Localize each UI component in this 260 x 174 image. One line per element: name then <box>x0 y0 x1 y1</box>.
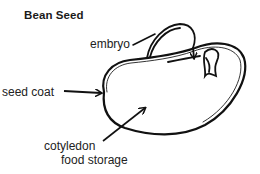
seed-coat-outline <box>103 43 245 134</box>
embryo-shape <box>147 24 218 76</box>
label-cotyledon: cotyledon <box>44 139 95 153</box>
seed-coat-arrow <box>64 91 101 93</box>
label-seed-coat: seed coat <box>2 85 54 99</box>
label-food-storage: food storage <box>61 153 128 167</box>
label-embryo: embryo <box>90 37 130 51</box>
cotyledon-arrow <box>103 108 145 141</box>
